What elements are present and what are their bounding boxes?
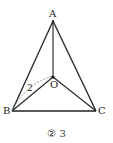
segment-ac [53, 21, 96, 111]
answer-caption: ② 3 [0, 129, 113, 139]
segment-co [53, 77, 96, 111]
label-o: O [50, 80, 58, 90]
label-a: A [49, 9, 56, 19]
triangle-diagram [0, 0, 113, 143]
label-length-2: 2 [27, 84, 33, 93]
segment-ab [12, 21, 53, 111]
point-a-dot [52, 20, 54, 22]
label-c: C [98, 106, 106, 116]
label-b: B [3, 106, 10, 116]
